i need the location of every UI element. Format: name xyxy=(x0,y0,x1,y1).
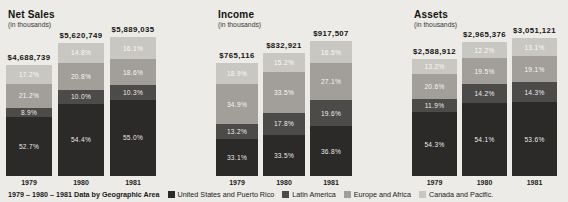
segment-latin_america: 17.8% xyxy=(263,113,305,135)
year-label: 1979 xyxy=(210,179,264,186)
segment-canada_pacific: 12.2% xyxy=(462,42,507,58)
segment-europe_africa: 20.6% xyxy=(412,74,457,98)
segment-percent-label: 19.5% xyxy=(474,68,494,75)
segment-percent-label: 14.8% xyxy=(71,49,91,56)
year-label: 1981 xyxy=(304,179,358,186)
segment-latin_america: 14.3% xyxy=(512,82,557,102)
bar-column-1979: $2,588,91213.2%20.6%11.9%54.3%1979 xyxy=(412,47,457,176)
segment-us_pr: 36.8% xyxy=(310,126,352,176)
segment-us_pr: 33.1% xyxy=(216,139,258,176)
segment-percent-label: 33.1% xyxy=(227,154,247,161)
segment-latin_america: 19.6% xyxy=(310,100,352,126)
legend-item: Latin America xyxy=(282,190,336,199)
chart-subtitle: (in thousands) xyxy=(218,21,261,28)
segment-percent-label: 53.6% xyxy=(524,136,544,143)
segment-latin_america: 14.2% xyxy=(462,84,507,103)
chart-income: Income (in thousands) $765,11618.9%34.9%… xyxy=(216,0,356,176)
segment-latin_america: 13.2% xyxy=(216,124,258,139)
legend-items: United States and Puerto RicoLatin Ameri… xyxy=(168,190,494,199)
legend-item-label: Europe and Africa xyxy=(354,190,411,199)
segment-percent-label: 18.6% xyxy=(123,69,143,76)
segment-percent-label: 13.2% xyxy=(424,63,444,70)
segment-percent-label: 12.2% xyxy=(474,47,494,54)
segment-percent-label: 52.7% xyxy=(19,143,39,150)
segment-europe_africa: 34.9% xyxy=(216,84,258,123)
segment-percent-label: 8.9% xyxy=(21,109,37,116)
chart-title: Net Sales xyxy=(8,9,55,20)
segment-canada_pacific: 13.1% xyxy=(512,38,557,56)
segment-us_pr: 54.3% xyxy=(412,112,457,176)
bar-total-label: $4,688,739 xyxy=(6,53,52,62)
chart-title: Income xyxy=(218,9,261,20)
geographic-data-chart-page: Net Sales (in thousands) $4,688,73917.2%… xyxy=(0,0,568,202)
legend-item-label: Latin America xyxy=(292,190,336,199)
segment-percent-label: 16.5% xyxy=(321,49,341,56)
stacked-bar-1980: 12.2%19.5%14.2%54.1% xyxy=(462,42,507,176)
segment-latin_america: 10.0% xyxy=(58,90,104,103)
segment-percent-label: 11.9% xyxy=(425,102,445,109)
segment-percent-label: 13.1% xyxy=(524,44,544,51)
segment-percent-label: 14.3% xyxy=(524,89,544,96)
bar-column-1979: $4,688,73917.2%21.2%8.9%52.7%1979 xyxy=(6,53,52,176)
legend-item: Europe and Africa xyxy=(344,190,411,199)
bar-column-1980: $2,965,37612.2%19.5%14.2%54.1%1980 xyxy=(462,30,507,176)
segment-percent-label: 33.5% xyxy=(274,89,294,96)
segment-percent-label: 54.3% xyxy=(424,141,444,148)
segment-percent-label: 20.8% xyxy=(71,73,91,80)
stacked-bar-1979: 17.2%21.2%8.9%52.7% xyxy=(6,65,52,176)
segment-europe_africa: 27.1% xyxy=(310,63,352,100)
segment-canada_pacific: 17.2% xyxy=(6,65,52,84)
year-label: 1980 xyxy=(52,179,110,186)
chart-title-block: Income (in thousands) xyxy=(218,9,261,28)
segment-europe_africa: 19.1% xyxy=(512,56,557,82)
segment-percent-label: 16.1% xyxy=(123,45,143,52)
legend-swatch-latin_america xyxy=(282,191,289,198)
segment-europe_africa: 33.5% xyxy=(263,72,305,113)
legend-swatch-canada_pacific xyxy=(419,191,426,198)
bar-column-1980: $5,620,74914.8%20.8%10.0%54.4%1980 xyxy=(58,31,104,176)
segment-us_pr: 53.6% xyxy=(512,102,557,176)
segment-canada_pacific: 15.2% xyxy=(263,53,305,72)
segment-percent-label: 10.0% xyxy=(71,93,91,100)
segment-percent-label: 13.2% xyxy=(227,128,247,135)
segment-percent-label: 33.5% xyxy=(274,152,294,159)
bars-row: $2,588,91213.2%20.6%11.9%54.3%1979$2,965… xyxy=(412,26,557,176)
bar-column-1980: $832,92115.2%33.5%17.8%33.5%1980 xyxy=(263,41,305,176)
segment-percent-label: 54.4% xyxy=(71,136,91,143)
segment-percent-label: 21.2% xyxy=(19,92,39,99)
segment-percent-label: 15.2% xyxy=(274,59,294,66)
bar-total-label: $765,116 xyxy=(216,51,258,60)
legend-item: Canada and Pacific. xyxy=(419,190,493,199)
segment-canada_pacific: 18.9% xyxy=(216,63,258,84)
bar-total-label: $5,620,749 xyxy=(58,31,104,40)
legend-swatch-europe_africa xyxy=(344,191,351,198)
bar-total-label: $917,507 xyxy=(310,29,352,38)
segment-us_pr: 54.4% xyxy=(58,104,104,176)
segment-us_pr: 33.5% xyxy=(263,135,305,176)
bar-column-1981: $917,50716.5%27.1%19.6%36.8%1981 xyxy=(310,29,352,176)
year-label: 1979 xyxy=(406,179,463,186)
bar-total-label: $3,051,121 xyxy=(512,26,557,35)
segment-percent-label: 34.9% xyxy=(227,101,247,108)
segment-percent-label: 54.1% xyxy=(474,136,494,143)
segment-percent-label: 27.1% xyxy=(321,78,341,85)
year-label: 1979 xyxy=(0,179,58,186)
bar-total-label: $2,588,912 xyxy=(412,47,457,56)
segment-europe_africa: 20.8% xyxy=(58,63,104,91)
bar-column-1981: $5,889,03516.1%18.6%10.3%55.0%1981 xyxy=(110,25,156,176)
segment-europe_africa: 18.6% xyxy=(110,59,156,85)
bar-total-label: $5,889,035 xyxy=(110,25,156,34)
segment-us_pr: 52.7% xyxy=(6,117,52,175)
segment-canada_pacific: 13.2% xyxy=(412,59,457,74)
bar-column-1979: $765,11618.9%34.9%13.2%33.1%1979 xyxy=(216,51,258,176)
legend-item: United States and Puerto Rico xyxy=(168,190,275,199)
bar-total-label: $2,965,376 xyxy=(462,30,507,39)
segment-latin_america: 11.9% xyxy=(412,99,457,113)
segment-percent-label: 18.9% xyxy=(227,70,247,77)
segment-percent-label: 19.6% xyxy=(321,110,341,117)
segment-percent-label: 14.2% xyxy=(474,90,494,97)
stacked-bar-1980: 15.2%33.5%17.8%33.5% xyxy=(263,53,305,176)
legend: 1979 – 1980 – 1981 Data by Geographic Ar… xyxy=(8,190,566,199)
year-label: 1981 xyxy=(104,179,162,186)
segment-latin_america: 8.9% xyxy=(6,108,52,118)
